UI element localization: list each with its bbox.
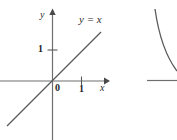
x-axis-tick-label-one: 1 bbox=[79, 84, 84, 94]
x-axis-arrowhead bbox=[104, 78, 110, 85]
decreasing-curve bbox=[155, 9, 177, 71]
x-axis-label: x bbox=[100, 83, 104, 93]
y-axis-arrowhead bbox=[49, 9, 55, 16]
y-axis-label: y bbox=[40, 10, 44, 20]
line-y-equals-x bbox=[7, 32, 101, 126]
graph-figure: y x y = x 0 1 1 bbox=[0, 0, 177, 140]
y-axis-tick-label-one: 1 bbox=[38, 44, 43, 54]
equation-label: y = x bbox=[79, 14, 102, 25]
origin-label: 0 bbox=[55, 83, 60, 93]
